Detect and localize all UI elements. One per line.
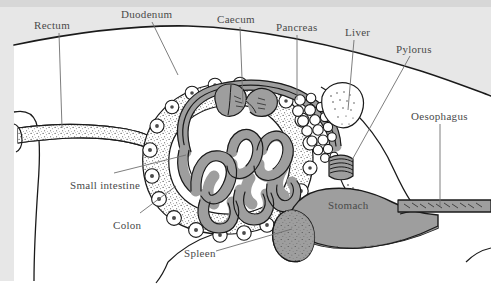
oesophagus-organ [398, 200, 491, 212]
liver-organ [322, 83, 364, 128]
label-duodenum: Duodenum [121, 9, 172, 20]
label-small-intestine: Small intestine [70, 180, 140, 191]
label-oesophagus: Oesophagus [411, 111, 468, 122]
label-spleen: Spleen [184, 248, 216, 259]
label-rectum: Rectum [34, 20, 70, 31]
scan-top-band [0, 0, 491, 7]
label-liver: Liver [345, 27, 370, 38]
label-pancreas: Pancreas [276, 22, 318, 33]
label-pylorus: Pylorus [396, 44, 432, 55]
anatomy-figure: Rectum Duodenum Caecum Pancreas Liver Py… [0, 0, 491, 293]
label-colon: Colon [113, 220, 141, 231]
label-caecum: Caecum [217, 14, 255, 25]
label-stomach: Stomach [328, 200, 369, 211]
